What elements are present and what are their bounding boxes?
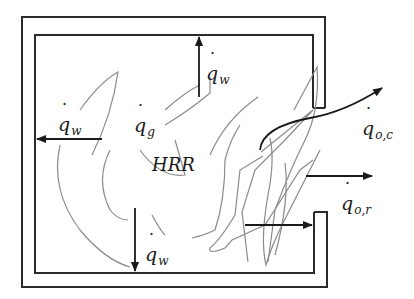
label-q-w-left: qw bbox=[58, 115, 81, 134]
label-q-w-bottom: qw bbox=[145, 245, 168, 264]
label-q-o-c: qo,c bbox=[362, 119, 393, 138]
label-hrr: HRR bbox=[152, 156, 195, 174]
compartment-diagram bbox=[0, 0, 414, 299]
label-q-g: qg bbox=[134, 116, 155, 135]
compartment-walls bbox=[22, 17, 327, 287]
outer-wall-upper bbox=[22, 17, 327, 287]
label-q-o-r: qo,r bbox=[341, 194, 371, 213]
label-q-w-top: qw bbox=[206, 64, 229, 83]
